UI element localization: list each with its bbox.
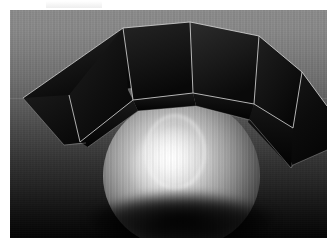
polygon-crown — [10, 10, 327, 238]
screenshot-root — [0, 0, 327, 251]
top-edge-artifact — [46, 1, 102, 8]
panel-center-left — [123, 22, 193, 100]
render-frame — [10, 10, 327, 238]
